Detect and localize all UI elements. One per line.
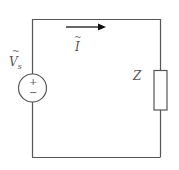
circuit-diagram: + − ~ Vs ~ I Z [0,0,179,170]
impedance-label: Z [133,70,141,82]
wires [32,19,161,158]
source-label-main: V [9,55,18,69]
current-arrow-icon [66,24,106,31]
source-label-subscript: s [18,62,22,71]
impedance-box [154,71,167,111]
current-label: I [75,41,80,53]
minus-sign: − [29,88,37,98]
plus-sign: + [29,77,37,87]
source-label: Vs [9,56,22,71]
circuit-drawing [0,0,179,170]
